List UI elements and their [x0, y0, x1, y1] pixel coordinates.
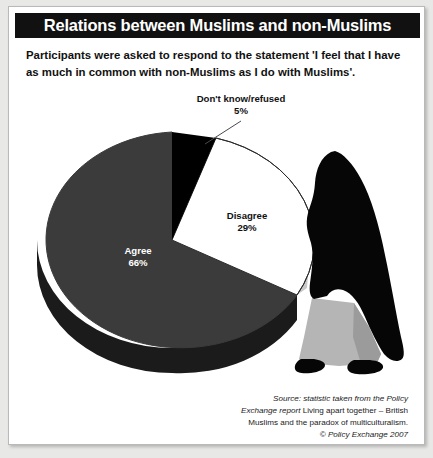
leader-line-dontknow	[205, 121, 241, 144]
pie-label-dontknow-name: Don't know/refused	[197, 93, 286, 104]
pie-label-agree-pct: 66%	[101, 257, 175, 269]
pie-label-dontknow-pct: 5%	[181, 105, 301, 117]
silhouette-shoe-left	[295, 359, 325, 373]
chart-figure: Relations between Muslims and non-Muslim…	[8, 6, 425, 445]
pie-label-disagree: Disagree 29%	[205, 210, 289, 234]
source-line-1: Source: statistic taken from the Policy	[178, 393, 408, 405]
chart-subtitle: Participants were asked to respond to th…	[26, 47, 416, 80]
pie-slice-agree	[46, 132, 297, 348]
page-title: Relations between Muslims and non-Muslim…	[44, 16, 392, 35]
pie-label-disagree-pct: 29%	[205, 222, 289, 234]
silhouette-shoe-right	[347, 360, 383, 374]
source-line-3: Muslims and the paradox of multicultural…	[178, 417, 408, 429]
source-note: Source: statistic taken from the Policy …	[178, 393, 408, 442]
source-line-2: Exchange report Living apart together – …	[178, 405, 408, 417]
pie-label-dontknow: Don't know/refused 5%	[181, 93, 301, 117]
pie-label-disagree-name: Disagree	[227, 210, 268, 221]
source-line-4: © Policy Exchange 2007	[178, 429, 408, 441]
pie-label-agree-name: Agree	[124, 245, 151, 256]
silhouette-underrobe	[299, 298, 381, 366]
pie-depth-disagree	[297, 263, 308, 295]
pie-label-agree: Agree 66%	[101, 245, 175, 269]
silhouette-cloak	[307, 151, 404, 361]
silhouette-underrobe-shade	[353, 303, 381, 364]
woman-silhouette-illustration	[295, 151, 404, 374]
chart-title-bar: Relations between Muslims and non-Muslim…	[15, 13, 420, 38]
